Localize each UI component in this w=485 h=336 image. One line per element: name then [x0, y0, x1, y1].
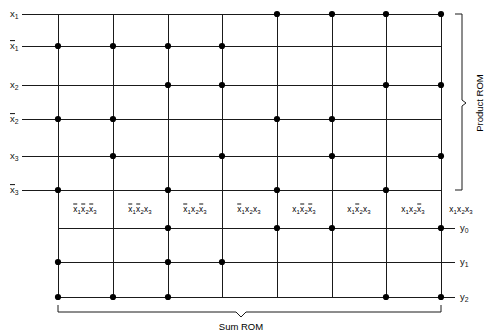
dot-x1bar-col1	[55, 43, 61, 49]
product-term-1: x1x2x3	[73, 205, 97, 214]
grid-lines	[22, 14, 455, 297]
product-term-3: x1x2x3	[183, 205, 207, 214]
input-label-x3: x3	[10, 151, 19, 161]
dot-x2bar-col5	[274, 116, 280, 122]
dot-y2-col2	[110, 294, 116, 300]
product-rom-label: Product ROM	[474, 74, 485, 132]
dot-x3-col2	[110, 153, 116, 159]
dot-y1-col3	[165, 259, 171, 265]
dot-y0-col3	[165, 225, 171, 231]
dot-x2bar-col6	[329, 116, 335, 122]
dot-y2-col7	[383, 294, 389, 300]
dot-x3bar-col5	[274, 187, 280, 193]
dot-y1-col4	[219, 259, 225, 265]
dot-x2-col3	[165, 82, 171, 88]
dot-x1bar-col2	[110, 43, 116, 49]
product-term-5: x1x2x3	[292, 205, 316, 214]
dot-x2-col4	[219, 82, 225, 88]
dot-x3bar-col7	[383, 187, 389, 193]
dot-y2-col8	[438, 294, 444, 300]
output-label-y2: y2	[460, 292, 469, 302]
dot-x1-col5	[274, 11, 280, 17]
dot-x2-col8	[438, 82, 444, 88]
product-rom-bracket	[455, 14, 466, 190]
product-term-2: x1x2x3	[128, 205, 152, 214]
product-term-6: x1x2x3	[347, 205, 371, 214]
dot-x1-col6	[329, 11, 335, 17]
sum-rom-bracket	[58, 305, 441, 317]
input-label-x3bar: x3	[10, 185, 19, 195]
input-label-x2bar: x2	[10, 114, 19, 124]
dot-x1bar-col3	[165, 43, 171, 49]
product-term-7: x1x2x3	[401, 205, 425, 214]
dot-y2-col1	[55, 294, 61, 300]
dot-x2bar-col1	[55, 116, 61, 122]
output-label-y0: y0	[460, 223, 469, 233]
dot-x3bar-col1	[55, 187, 61, 193]
output-label-y1: y1	[460, 257, 469, 267]
dot-x2-col7	[383, 82, 389, 88]
dot-x1bar-col4	[219, 43, 225, 49]
sum-rom-label: Sum ROM	[219, 321, 263, 332]
dot-y2-col3	[165, 294, 171, 300]
dot-x2bar-col2	[110, 116, 116, 122]
dot-x3-col4	[219, 153, 225, 159]
product-term-8: x1x2x3	[449, 205, 473, 214]
dot-y0-col5	[274, 225, 280, 231]
input-label-x1bar: x1	[10, 41, 19, 51]
dot-y0-col6	[329, 225, 335, 231]
dot-y1-col1	[55, 259, 61, 265]
dot-x3bar-col3	[165, 187, 171, 193]
product-term-4: x1x2x3	[237, 205, 261, 214]
input-label-x1: x1	[10, 9, 19, 19]
dot-x1-col7	[383, 11, 389, 17]
dot-y0-col8	[438, 225, 444, 231]
input-label-x2: x2	[10, 80, 19, 90]
dot-x1-col8	[438, 11, 444, 17]
dot-x3-col6	[329, 153, 335, 159]
dot-x3-col8	[438, 153, 444, 159]
rom-brackets	[58, 14, 466, 317]
